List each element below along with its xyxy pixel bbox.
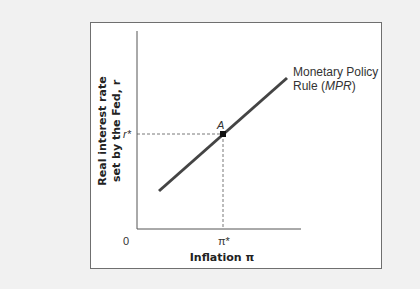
- curve-label-mpr: MPR: [325, 79, 352, 93]
- point-a-marker: [220, 131, 226, 137]
- mpr-diagram: A r* π* 0 Inflation π Real interest rate…: [0, 0, 420, 289]
- y-axis-label-line2: set by the Fed, r: [110, 79, 123, 182]
- y-tick-r-star: r*: [123, 128, 132, 140]
- curve-label-suffix: ): [352, 79, 356, 93]
- point-a-label: A: [216, 119, 224, 131]
- y-axis-label-line1: Real interest rate: [96, 76, 109, 185]
- curve-label-line2: Rule (MPR): [293, 79, 356, 93]
- curve-label-line1: Monetary Policy: [293, 65, 378, 79]
- x-axis-label: Inflation π: [190, 251, 255, 264]
- origin-label: 0: [123, 235, 129, 247]
- curve-label-prefix: Rule (: [293, 79, 325, 93]
- x-tick-pi-star: π*: [218, 235, 231, 247]
